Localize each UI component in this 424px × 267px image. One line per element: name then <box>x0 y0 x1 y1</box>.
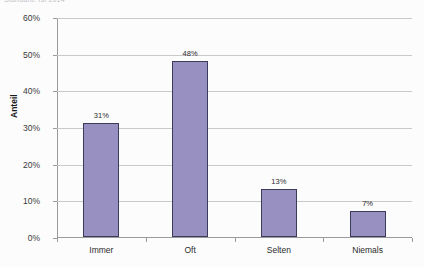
y-tick-mark <box>53 55 57 56</box>
y-tick-label: 60% <box>0 13 40 23</box>
y-axis-title: Anteil <box>9 94 19 118</box>
y-tick-label: 30% <box>0 123 40 133</box>
y-tick-mark <box>53 18 57 19</box>
plot-area: 0%10%20%30%40%50%60% 31%48%13%7% <box>57 18 412 238</box>
bar <box>172 61 208 237</box>
bar-value-label: 31% <box>71 111 131 120</box>
y-tick-mark <box>53 91 57 92</box>
bar-value-label: 48% <box>160 49 220 58</box>
y-tick-label: 40% <box>0 86 40 96</box>
gridline <box>57 91 412 92</box>
bar <box>83 123 119 237</box>
x-tick-mark <box>235 238 236 242</box>
cropped-title-text: Standard: Ist 2014 <box>4 0 124 3</box>
bar <box>261 189 297 237</box>
x-tick-mark <box>412 238 413 242</box>
bar <box>350 211 386 237</box>
gridline <box>57 18 412 19</box>
x-tick-mark <box>323 238 324 242</box>
x-axis-category-label: Oft <box>145 245 235 255</box>
x-axis-category-label: Selten <box>234 245 324 255</box>
cropped-title: Standard: Ist 2014 <box>4 0 124 6</box>
bar-value-label: 7% <box>338 199 398 208</box>
x-axis-category-label: Niemals <box>323 245 413 255</box>
y-tick-mark <box>53 128 57 129</box>
y-tick-label: 0% <box>0 233 40 243</box>
x-tick-mark <box>146 238 147 242</box>
y-tick-mark <box>53 165 57 166</box>
x-tick-mark <box>57 238 58 242</box>
gridline <box>57 55 412 56</box>
chart-page: Standard: Ist 2014 Anteil 0%10%20%30%40%… <box>0 0 424 267</box>
y-tick-mark <box>53 201 57 202</box>
y-tick-label: 20% <box>0 160 40 170</box>
y-tick-label: 50% <box>0 50 40 60</box>
y-tick-label: 10% <box>0 196 40 206</box>
x-axis-category-label: Immer <box>56 245 146 255</box>
bar-value-label: 13% <box>249 177 309 186</box>
